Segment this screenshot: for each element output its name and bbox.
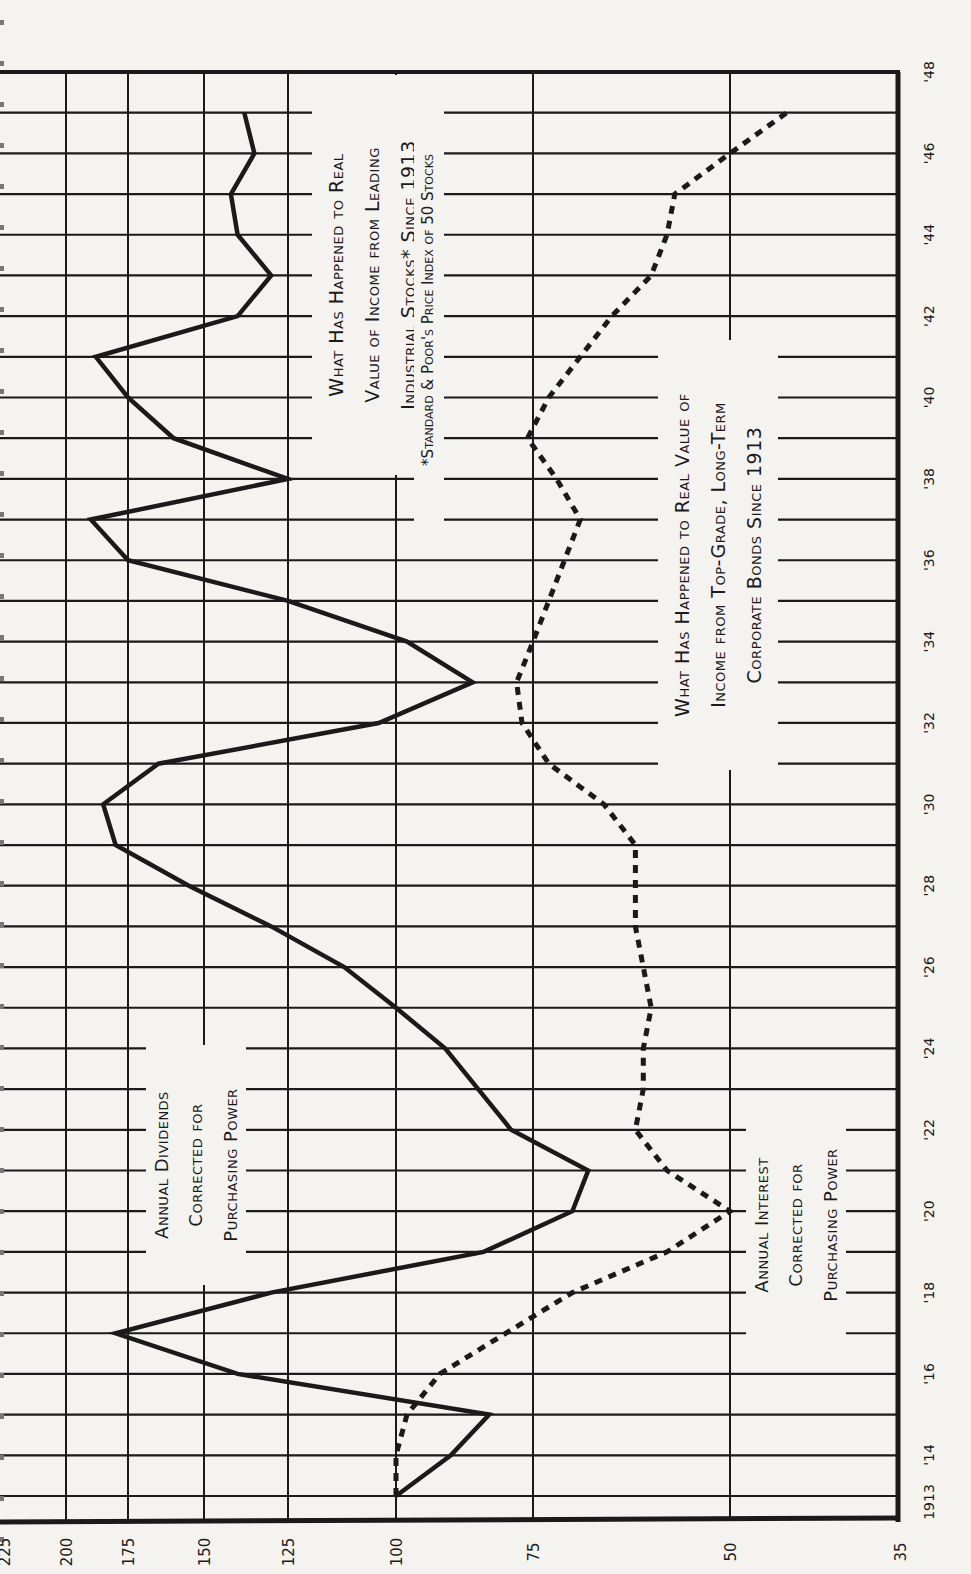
binding-mark — [0, 430, 4, 435]
binding-mark — [0, 635, 4, 640]
year-tick-label: '18 — [921, 1282, 937, 1304]
year-tick-label: '40 — [921, 387, 937, 409]
annotation-labels: What Has Happened to RealValue of Income… — [146, 75, 846, 1340]
value-tick-label: 50 — [722, 1542, 740, 1561]
year-tick-label: '22 — [921, 1119, 937, 1141]
year-tick-label: '24 — [921, 1038, 937, 1060]
value-tick-label: 175 — [120, 1538, 138, 1567]
binding-mark — [0, 1086, 4, 1091]
bonds-title: What Has Happened to Real Value of — [671, 393, 693, 717]
binding-mark — [0, 512, 4, 517]
interest-label: Corrected for — [785, 1163, 806, 1286]
value-tick-label: 125 — [280, 1538, 298, 1567]
binding-mark — [0, 143, 4, 148]
year-tick-label: '38 — [921, 468, 937, 490]
binding-mark — [0, 348, 4, 353]
bonds-title: Corporate Bonds Since 1913 — [743, 427, 765, 684]
dividends-label: Purchasing Power — [220, 1088, 241, 1241]
binding-mark — [0, 1414, 4, 1419]
binding-mark — [0, 1250, 4, 1255]
value-tick-label: 35 — [892, 1542, 910, 1561]
binding-mark — [0, 881, 4, 886]
binding-mark — [0, 1291, 4, 1296]
interest-label: Annual Interest — [751, 1157, 772, 1292]
value-tick-label: 200 — [58, 1538, 76, 1567]
value-tick-label: 75 — [525, 1542, 543, 1561]
dividends-label: Annual Dividends — [151, 1091, 172, 1239]
year-tick-label: '28 — [921, 875, 937, 897]
binding-mark — [0, 676, 4, 681]
binding-mark — [0, 1332, 4, 1337]
binding-mark — [0, 471, 4, 476]
bonds-title: Income from Top-Grade, Long-Term — [707, 402, 729, 708]
binding-mark — [0, 1168, 4, 1173]
year-tick-label: '44 — [921, 224, 937, 246]
binding-mark — [0, 20, 4, 25]
binding-mark — [0, 1496, 4, 1501]
binding-mark — [0, 266, 4, 271]
year-tick-label: '48 — [921, 61, 937, 83]
binding-mark — [0, 184, 4, 189]
year-tick-label: '14 — [921, 1444, 937, 1466]
binding-mark — [0, 225, 4, 230]
year-tick-label: '32 — [921, 712, 937, 734]
binding-mark — [0, 553, 4, 558]
binding-mark — [0, 1045, 4, 1050]
binding-mark — [0, 1004, 4, 1009]
binding-mark — [0, 1373, 4, 1378]
year-tick-label: '42 — [921, 305, 937, 327]
year-tick-label: 1913 — [921, 1484, 937, 1520]
year-tick-label: '30 — [921, 794, 937, 816]
value-tick-label: 100 — [388, 1538, 406, 1567]
binding-mark — [0, 389, 4, 394]
year-tick-label: '34 — [921, 631, 937, 653]
binding-mark — [0, 1455, 4, 1460]
stocks-title: What Has Happened to Real — [325, 153, 347, 396]
binding-mark — [0, 61, 4, 66]
binding-mark — [0, 758, 4, 763]
interest-label: Purchasing Power — [820, 1148, 841, 1301]
binding-mark — [0, 1127, 4, 1132]
year-tick-label: '46 — [921, 142, 937, 164]
binding-mark — [0, 963, 4, 968]
year-tick-label: '26 — [921, 956, 937, 978]
stocks-title: Value of Income from Leading — [361, 147, 383, 402]
binding-mark — [0, 102, 4, 107]
value-tick-label: 150 — [196, 1538, 214, 1567]
value-tick-label: 225 — [0, 1538, 14, 1567]
binding-mark — [0, 799, 4, 804]
binding-mark — [0, 717, 4, 722]
rotated-line-chart: What Has Happened to RealValue of Income… — [0, 0, 971, 1574]
stocks-footnote: *Standard & Poor's Price Index of 50 Sto… — [419, 154, 437, 466]
binding-mark — [0, 922, 4, 927]
binding-mark — [0, 307, 4, 312]
binding-mark — [0, 840, 4, 845]
year-tick-label: '16 — [921, 1363, 937, 1385]
dividends-label: Corrected for — [185, 1103, 206, 1226]
binding-mark — [0, 594, 4, 599]
year-tick-label: '36 — [921, 549, 937, 571]
year-tick-label: '20 — [921, 1200, 937, 1222]
binding-mark — [0, 1209, 4, 1214]
